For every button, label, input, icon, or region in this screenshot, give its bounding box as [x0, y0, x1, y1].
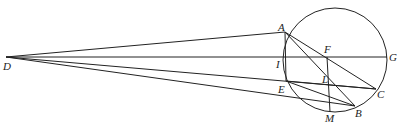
point-label-C: C: [377, 88, 385, 100]
point-label-D: D: [2, 60, 11, 72]
point-labels: DAGFIELCBM: [2, 21, 397, 123]
point-label-E: E: [277, 83, 285, 95]
segment-DA: [6, 32, 285, 57]
segment-EC: [286, 81, 376, 89]
point-label-M: M: [324, 112, 335, 123]
circle: [283, 8, 387, 112]
point-label-B: B: [355, 107, 362, 119]
point-label-G: G: [389, 51, 397, 63]
point-label-F: F: [323, 43, 331, 55]
segment-DB: [6, 57, 355, 106]
point-label-L: L: [321, 73, 328, 85]
point-label-A: A: [277, 21, 285, 33]
point-label-I: I: [275, 58, 281, 70]
geometry-diagram: DAGFIELCBM: [0, 0, 397, 123]
diagram-svg: DAGFIELCBM: [0, 0, 397, 123]
segment-EB: [286, 81, 355, 106]
